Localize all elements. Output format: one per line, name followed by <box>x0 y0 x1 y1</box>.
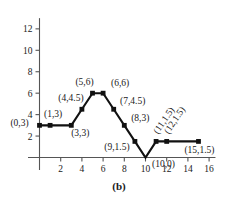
data-marker <box>80 107 85 112</box>
y-tick-label: 6 <box>28 89 33 99</box>
data-marker <box>196 139 201 144</box>
x-tick-label: 10 <box>141 164 151 174</box>
point-label: (5,6) <box>75 77 93 88</box>
x-tick-label: 6 <box>101 164 106 174</box>
data-marker <box>111 107 116 112</box>
data-marker <box>122 123 127 128</box>
data-marker <box>101 91 106 96</box>
point-label: (3,3) <box>71 128 89 139</box>
point-label: (8,3) <box>131 113 149 124</box>
x-tick-label: 2 <box>58 164 63 174</box>
point-label: (0,3) <box>10 118 28 129</box>
data-marker <box>164 139 169 144</box>
x-tick-label: 14 <box>183 164 193 174</box>
data-marker <box>69 123 74 128</box>
data-marker <box>48 123 53 128</box>
y-tick-label: 8 <box>28 67 33 77</box>
line-chart: 246810121416 24681012 (0,3)(1,3)(3,3)(4,… <box>0 0 238 199</box>
point-label: (4,4.5) <box>58 93 83 104</box>
data-marker <box>90 91 95 96</box>
data-marker <box>154 139 159 144</box>
point-label: (1,3) <box>44 109 62 120</box>
x-tick-label: 16 <box>204 164 214 174</box>
point-label: (15,1.5) <box>184 145 214 156</box>
point-label: (6,6) <box>111 78 129 89</box>
y-tick-label: 10 <box>23 46 33 56</box>
data-marker <box>133 139 138 144</box>
x-tick-label: 8 <box>122 164 127 174</box>
y-tick-label: 2 <box>28 132 33 142</box>
y-tick-label: 12 <box>23 24 33 34</box>
data-marker <box>37 123 42 128</box>
x-axis-ticks: 246810121416 <box>58 158 214 174</box>
point-label: (9,1.5) <box>104 142 129 153</box>
x-tick-label: 4 <box>80 164 85 174</box>
point-label: (7,4.5) <box>120 96 145 107</box>
figure-caption: (b) <box>112 180 126 193</box>
figure-container: 246810121416 24681012 (0,3)(1,3)(3,3)(4,… <box>0 0 238 199</box>
point-label: (10,0) <box>152 159 175 170</box>
